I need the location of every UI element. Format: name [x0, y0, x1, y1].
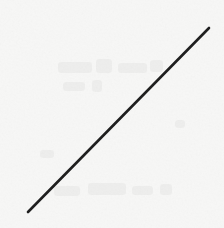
paper-grain-overlay: [0, 0, 224, 228]
line-chart-drawing: [0, 0, 224, 228]
figure-canvas: [0, 0, 224, 228]
